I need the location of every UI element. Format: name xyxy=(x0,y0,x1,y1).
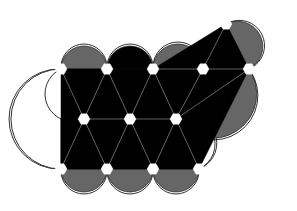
polyhedron-net-figure: Polyhedron net Black-and-white net of a … xyxy=(0,0,297,211)
diagram-canvas: Polyhedron net Black-and-white net of a … xyxy=(0,0,297,211)
